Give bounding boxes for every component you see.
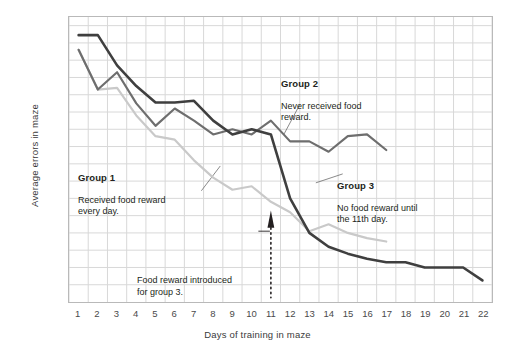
annotation-group-2-body: Never received food reward.	[281, 101, 362, 123]
food-introduced-arrowhead	[268, 210, 275, 227]
x-tick-22: 22	[472, 308, 494, 319]
annotation-group-1-body: Received food reward every day.	[78, 195, 166, 217]
annotation-group-3-body: No food reward until the 11th day.	[337, 203, 418, 225]
annotation-group-2-title: Group 2	[281, 78, 362, 90]
x-axis-title: Days of training in maze	[0, 329, 515, 340]
annotation-group-2: Group 2 Never received food reward.	[281, 66, 362, 124]
annotation-group-3: Group 3 No food reward until the 11th da…	[337, 168, 418, 226]
y-axis-title: Average errors in maze	[29, 76, 40, 236]
line-chart-figure: Average errors in maze Days of training …	[0, 0, 515, 351]
annotation-food-introduced: Food reward introduced for group 3.	[137, 275, 232, 298]
annotation-group-1: Group 1 Received food reward every day.	[78, 160, 166, 218]
annotation-group-1-title: Group 1	[78, 172, 166, 184]
annotation-group-3-title: Group 3	[337, 180, 418, 192]
